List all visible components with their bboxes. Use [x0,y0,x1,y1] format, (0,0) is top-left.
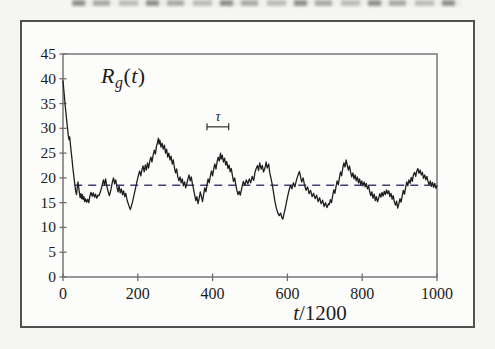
curve-label: Rg(t) [101,63,146,89]
x-axis-label-rest: /1200 [299,301,347,325]
x-axis-label: t/1200 [278,301,362,326]
curve-label-close-paren: ) [138,63,146,88]
figure-frame [20,20,475,328]
curve-label-main: R [101,63,115,88]
scan-artifact-strip [72,0,462,6]
tau-annotation-label: τ [206,109,230,125]
curve-label-var: t [131,63,138,88]
